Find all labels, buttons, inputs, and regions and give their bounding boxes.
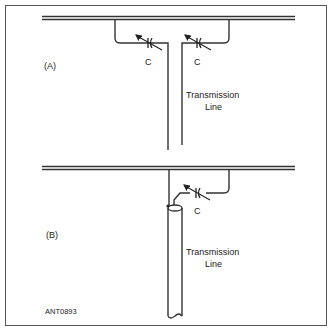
transmission-line-label-b-2: Line — [205, 259, 222, 269]
panel-b: (B) C Transmission Line ANT0893 — [42, 167, 295, 319]
gamma-arm-right — [182, 20, 229, 145]
gamma-arm-left — [115, 20, 168, 150]
transmission-line-label-a-1: Transmission — [186, 90, 239, 100]
transmission-line-label-b-1: Transmission — [186, 247, 239, 257]
panel-a: (A) C C Transmission Line — [42, 17, 295, 151]
diagram: (A) C C Transmission Line — [0, 0, 335, 335]
panel-b-label: (B) — [46, 230, 58, 240]
coaxial-cable — [166, 204, 182, 318]
capacitor-label-b: C — [194, 206, 201, 216]
antenna-element-b — [42, 167, 295, 170]
capacitor-label-right: C — [194, 57, 201, 67]
antenna-element-a — [42, 17, 295, 20]
figure-id: ANT0893 — [45, 307, 77, 316]
capacitor-label-left: C — [145, 57, 152, 67]
panel-a-label: (A) — [44, 61, 56, 71]
gamma-arm-b — [206, 170, 229, 193]
transmission-line-label-a-2: Line — [205, 102, 222, 112]
